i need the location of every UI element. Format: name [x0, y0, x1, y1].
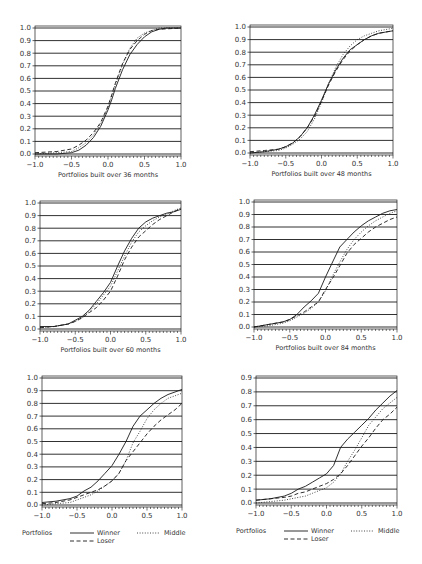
- y-tick-label: 0.7: [235, 61, 246, 69]
- y-tick-label: 0.9: [241, 374, 252, 382]
- x-tick-label: −1.0: [32, 336, 49, 344]
- y-tick-label: 0.9: [239, 211, 250, 219]
- y-tick-label: 0.8: [27, 400, 38, 408]
- x-tick-label: 0.5: [140, 336, 151, 344]
- series-winner-line: [42, 389, 182, 502]
- y-tick-label: 0.1: [27, 489, 38, 497]
- series-loser-line: [42, 403, 182, 503]
- series-winner-line: [250, 31, 393, 153]
- x-tick-label: −1.0: [27, 161, 44, 169]
- y-tick-label: 0.5: [27, 438, 38, 446]
- legend-loser-label: Loser: [311, 535, 329, 543]
- x-tick-label: 1.0: [387, 160, 398, 168]
- y-tick-label: 0.2: [27, 476, 38, 484]
- series-middle-line: [256, 397, 397, 503]
- y-tick-label: 0.4: [27, 451, 39, 459]
- x-tick-label: 0.5: [352, 160, 363, 168]
- y-tick-label: 0.6: [20, 75, 32, 83]
- y-tick-label: 0.2: [241, 472, 252, 480]
- plot-frame: [256, 376, 397, 505]
- x-tick-label: −1.0: [248, 510, 265, 518]
- x-axis-label: Portfolios built over 60 months: [60, 346, 161, 354]
- x-tick-label: 1.0: [391, 334, 402, 342]
- legend: PortfoliosWinnerLoserMiddle: [236, 527, 399, 543]
- x-tick-label: 1.0: [176, 512, 187, 520]
- y-tick-label: 0.4: [241, 444, 253, 452]
- y-tick-label: 0.5: [239, 261, 250, 269]
- legend-title: Portfolios: [22, 529, 53, 537]
- legend: PortfoliosWinnerLoserMiddle: [22, 529, 185, 545]
- y-tick-label: 0.1: [239, 311, 250, 319]
- y-tick-label: 0.3: [235, 112, 246, 120]
- legend-title: Portfolios: [236, 527, 267, 535]
- y-tick-label: 0.2: [20, 125, 31, 133]
- y-tick-label: 0.9: [27, 387, 38, 395]
- y-tick-label: 0.4: [20, 100, 32, 108]
- y-tick-label: 0.6: [235, 74, 247, 82]
- y-tick-label: 0.8: [25, 225, 36, 233]
- y-tick-label: 0.6: [241, 416, 253, 424]
- y-tick-label: 0.9: [20, 37, 31, 45]
- x-tick-label: −1.0: [34, 512, 51, 520]
- x-tick-label: 0.5: [141, 512, 152, 520]
- x-tick-label: −1.0: [246, 334, 263, 342]
- y-tick-label: 0.5: [235, 86, 246, 94]
- y-tick-label: 0.8: [235, 49, 246, 57]
- y-tick-label: 0.3: [27, 463, 38, 471]
- x-tick-label: 0.0: [321, 510, 332, 518]
- x-tick-label: 1.0: [175, 161, 186, 169]
- x-tick-label: −0.5: [67, 336, 84, 344]
- x-tick-label: −0.5: [281, 334, 298, 342]
- y-tick-label: 0.8: [20, 50, 31, 58]
- x-axis-label: Portfolios built over 36 months: [58, 171, 159, 179]
- series-loser-line: [250, 31, 393, 152]
- y-tick-label: 1.0: [239, 198, 250, 206]
- y-tick-label: 0.8: [239, 223, 250, 231]
- y-tick-label: 0.3: [20, 113, 31, 121]
- y-tick-label: 0.1: [20, 138, 31, 146]
- series-winner-line: [40, 209, 181, 326]
- y-tick-label: 1.0: [25, 199, 36, 207]
- chart-panel-4: 0.00.10.20.30.40.50.60.70.80.91.0−1.0−0.…: [239, 198, 403, 352]
- y-tick-label: 0.2: [235, 124, 246, 132]
- y-tick-label: 0.2: [25, 300, 36, 308]
- x-tick-label: 0.0: [316, 160, 327, 168]
- x-tick-label: 0.5: [356, 334, 367, 342]
- series-loser-line: [256, 407, 397, 500]
- y-tick-label: 0.7: [27, 413, 38, 421]
- series-middle-line: [250, 28, 393, 153]
- y-tick-label: 0.4: [235, 99, 247, 107]
- y-tick-label: 0.7: [241, 402, 252, 410]
- legend-winner-label: Winner: [97, 529, 120, 537]
- x-tick-label: 0.5: [139, 161, 150, 169]
- y-tick-label: 0.4: [25, 275, 37, 283]
- y-tick-label: 0.5: [241, 430, 252, 438]
- y-tick-label: 1.0: [27, 374, 38, 382]
- y-tick-label: 0.0: [241, 499, 252, 507]
- y-tick-label: 0.1: [25, 313, 36, 321]
- x-axis-label: Portfolios built over 84 months: [275, 344, 376, 352]
- figure: 0.00.10.20.30.40.50.60.70.80.91.0−1.0−0.…: [0, 0, 422, 564]
- y-tick-label: 0.7: [239, 236, 250, 244]
- y-tick-label: 0.8: [241, 388, 252, 396]
- x-tick-label: −1.0: [242, 160, 259, 168]
- y-tick-label: 0.6: [25, 250, 37, 258]
- y-tick-label: 0.7: [20, 62, 31, 70]
- y-tick-label: 0.1: [235, 137, 246, 145]
- chart-panel-5: 0.00.10.20.30.40.50.60.70.80.91.0−1.0−0.…: [22, 374, 188, 545]
- x-tick-label: 1.0: [175, 336, 186, 344]
- x-tick-label: 0.0: [102, 161, 113, 169]
- series-middle-line: [254, 211, 397, 327]
- series-loser-line: [35, 28, 181, 153]
- legend-loser-label: Loser: [97, 537, 115, 545]
- chart-panel-6: 0.00.10.20.30.40.50.60.70.80.9−1.0−0.50.…: [236, 374, 403, 543]
- y-tick-label: 0.5: [20, 87, 31, 95]
- series-loser-line: [40, 208, 181, 328]
- y-tick-label: 0.3: [241, 458, 252, 466]
- y-tick-label: 0.0: [20, 150, 31, 158]
- y-tick-label: 0.4: [239, 273, 251, 281]
- y-tick-label: 0.9: [25, 212, 36, 220]
- legend-middle-label: Middle: [164, 529, 185, 537]
- legend-winner-label: Winner: [311, 527, 334, 535]
- series-loser-line: [254, 217, 397, 327]
